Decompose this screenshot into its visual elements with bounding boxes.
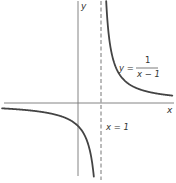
function-label-lhs: y = <box>118 63 134 73</box>
function-graph: y x y = 1 x − 1 x = 1 <box>0 0 176 183</box>
asymptote-label: x = 1 <box>105 122 129 132</box>
function-label-numerator: 1 <box>145 55 150 65</box>
curve-right-branch <box>106 1 172 95</box>
function-label: y = 1 x − 1 <box>118 55 160 79</box>
curve-left-branch <box>2 108 94 176</box>
x-axis-label: x <box>166 105 173 115</box>
y-axis-label: y <box>80 1 87 11</box>
function-label-denominator: x − 1 <box>136 69 160 79</box>
